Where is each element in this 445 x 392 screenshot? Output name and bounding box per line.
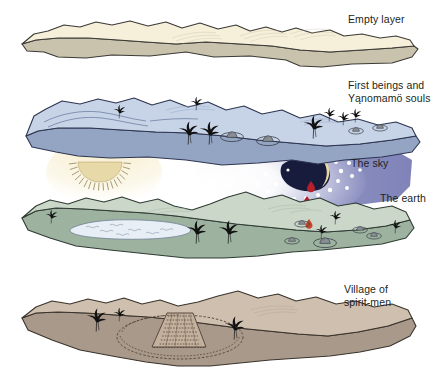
label-the-earth: The earth <box>380 192 426 205</box>
cosmology-illustration <box>0 0 445 392</box>
label-the-sky: The sky <box>351 157 388 170</box>
label-empty-layer: Empty layer <box>348 13 405 26</box>
label-village-of-spirit-men: Village of spirit-men <box>344 283 391 309</box>
cosmology-figure: Empty layer First beings and Yąnomamö so… <box>0 0 445 392</box>
label-first-beings: First beings and Yąnomamö souls <box>348 79 431 105</box>
layer-first-beings <box>26 97 420 165</box>
lake-body <box>70 220 191 240</box>
layer-empty <box>22 21 418 67</box>
lake <box>70 220 191 240</box>
